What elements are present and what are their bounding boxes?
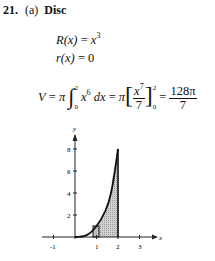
x-tick-label: 3: [138, 243, 142, 251]
y-tick-label: 6: [67, 168, 71, 176]
shaded-region: [97, 149, 119, 237]
y-tick-label: 2: [67, 212, 71, 220]
disc-graph: -1 1 2 3 2 4 6 8 x y: [0, 0, 215, 261]
x-tick-label: -1: [50, 243, 56, 251]
x-axis-arrow-icon: [152, 235, 158, 240]
y-axis-label: y: [72, 125, 77, 133]
y-tick-label: 4: [67, 190, 71, 198]
x-tick-label: 1: [95, 243, 99, 251]
y-axis-arrow-icon: [73, 134, 78, 141]
y-tick-label: 8: [67, 146, 71, 154]
x-tick-label: 2: [116, 243, 120, 251]
x-axis-label: x: [158, 234, 163, 242]
